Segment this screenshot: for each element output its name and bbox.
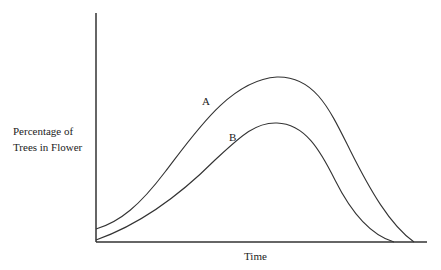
y-axis-label-line1: Percentage of [13, 123, 82, 139]
y-axis-label: Percentage of Trees in Flower [13, 123, 82, 155]
curve-a-label: A [202, 95, 210, 107]
curve-b-label: B [229, 131, 236, 143]
curve-b [96, 123, 394, 242]
y-axis-label-line2: Trees in Flower [13, 139, 82, 155]
x-axis-label: Time [244, 250, 267, 262]
